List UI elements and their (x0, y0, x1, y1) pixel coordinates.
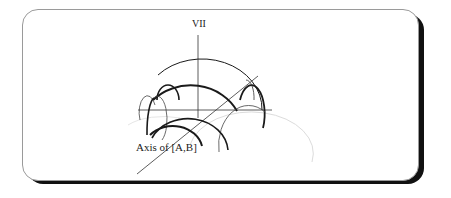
diagonal-axis-label: Axis of [A,B] (136, 141, 197, 153)
arc-outer-thin (158, 59, 262, 110)
faint-arc-large (190, 112, 313, 162)
arc-right-loop-thick (240, 85, 265, 128)
diagonal-axis (137, 76, 258, 174)
arcs-diagram (0, 0, 451, 198)
arc-left-stem (147, 98, 154, 135)
vertical-axis-label: VII (192, 18, 206, 29)
